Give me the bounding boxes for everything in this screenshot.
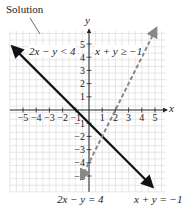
y-axis-label: y <box>85 14 90 26</box>
svg-text:−1: −1 <box>74 118 85 129</box>
graph: −5−4−3−2−112345−5−4−3−2−112345 <box>0 0 182 212</box>
svg-text:1: 1 <box>100 112 105 123</box>
inequality-label-1: 2x − y < 4 <box>29 45 76 57</box>
solution-label: Solution <box>6 3 43 15</box>
svg-text:1: 1 <box>80 91 85 102</box>
inequality-label-2: x + y ≥ −1 <box>95 45 142 57</box>
x-axis-label: x <box>169 102 174 114</box>
svg-text:4: 4 <box>80 52 85 63</box>
svg-text:3: 3 <box>80 65 85 76</box>
equation-label-dashed: 2x − y = 4 <box>57 193 104 205</box>
svg-text:−3: −3 <box>44 112 55 123</box>
svg-text:−2: −2 <box>57 112 68 123</box>
svg-text:−4: −4 <box>74 157 85 168</box>
solution-pointer <box>30 18 40 34</box>
svg-text:−4: −4 <box>31 112 42 123</box>
svg-text:−5: −5 <box>18 112 29 123</box>
svg-text:5: 5 <box>80 39 85 50</box>
svg-text:2: 2 <box>80 78 85 89</box>
svg-text:5: 5 <box>153 112 158 123</box>
svg-text:3: 3 <box>126 112 131 123</box>
svg-text:4: 4 <box>139 112 144 123</box>
svg-text:−2: −2 <box>74 131 85 142</box>
equation-label-solid: x + y = −1 <box>134 193 182 205</box>
svg-text:−3: −3 <box>74 144 85 155</box>
